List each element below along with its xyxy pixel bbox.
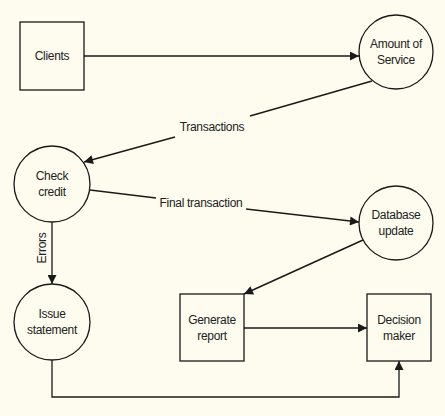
edge-database-to-generate-report	[244, 240, 363, 294]
node-generate-report-label-line2: report	[188, 328, 236, 344]
edge-label-transactions: Transactions	[180, 120, 245, 134]
node-check-credit-label-line2: credit	[36, 184, 69, 200]
node-database-update-label-line2: update	[372, 223, 421, 239]
node-decision-maker: Decision maker	[377, 312, 421, 344]
edge-label-errors: Errors	[35, 233, 49, 264]
node-issue-statement-label-line2: statement	[27, 322, 77, 338]
node-generate-report-label-line1: Generate	[188, 312, 236, 328]
edge-issue-statement-to-decision-maker	[52, 360, 399, 397]
node-issue-statement: Issue statement	[27, 306, 77, 338]
edge-label-final-transaction: Final transaction	[160, 196, 243, 210]
node-check-credit-label-line1: Check	[36, 168, 69, 184]
edge-transactions-segment-1	[250, 81, 372, 116]
edge-final-transaction-segment-1	[90, 190, 156, 198]
node-database-update: Database update	[372, 207, 421, 239]
node-issue-statement-label-line1: Issue	[27, 306, 77, 322]
node-clients: Clients	[35, 48, 70, 64]
node-generate-report: Generate report	[188, 312, 236, 344]
edge-final-transaction-segment-2	[246, 209, 359, 222]
node-amount-of-service-label-line2: Service	[370, 52, 422, 68]
node-decision-maker-label-line2: maker	[377, 328, 421, 344]
node-amount-of-service-label-line1: Amount of	[370, 36, 422, 52]
node-check-credit: Check credit	[36, 168, 69, 200]
node-clients-label: Clients	[35, 48, 70, 64]
edge-transactions-segment-2	[84, 137, 175, 162]
node-database-update-label-line1: Database	[372, 207, 421, 223]
node-decision-maker-label-line1: Decision	[377, 312, 421, 328]
node-amount-of-service: Amount of Service	[370, 36, 422, 68]
